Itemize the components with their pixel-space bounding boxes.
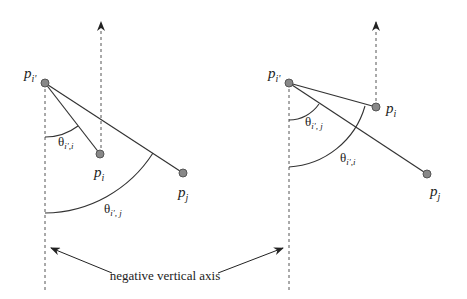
left-panel: pi' pi pj θi',i θi', j (23, 22, 189, 290)
caption-group: negative vertical axis (51, 248, 283, 283)
label-theta-iprime-i-right: θi',i (340, 150, 356, 167)
label-p-iprime-right: pi' (267, 65, 281, 84)
point-p-iprime-right (285, 79, 293, 87)
label-p-j-left: pj (177, 184, 189, 203)
right-panel: pi' pi pj θi', j θi',i (267, 22, 441, 290)
angle-arc-iprime-j-left (45, 153, 153, 213)
label-p-i-right: pi (385, 100, 397, 119)
point-p-j-right (423, 170, 431, 178)
point-p-iprime-left (41, 79, 49, 87)
label-theta-iprime-j-right: θi', j (305, 114, 323, 131)
point-p-j-left (179, 169, 187, 177)
caption-arrow-right (218, 248, 283, 273)
label-p-j-right: pj (429, 183, 441, 202)
point-p-i-right (372, 103, 380, 111)
label-theta-iprime-j-left: θi', j (104, 201, 122, 218)
segment-iprime-i-right (289, 83, 376, 107)
label-p-iprime-left: pi' (23, 65, 37, 84)
point-p-i-left (96, 150, 104, 158)
diagram-canvas: pi' pi pj θi',i θi', j pi' pi pj θi', j … (0, 0, 467, 299)
label-p-i-left: pi (93, 164, 105, 183)
angle-arc-iprime-j-right (289, 104, 319, 120)
label-theta-iprime-i-left: θi',i (58, 134, 74, 151)
caption-arrow-left (51, 248, 112, 273)
caption-negative-vertical-axis: negative vertical axis (110, 268, 220, 283)
segment-iprime-j-left (45, 83, 183, 173)
